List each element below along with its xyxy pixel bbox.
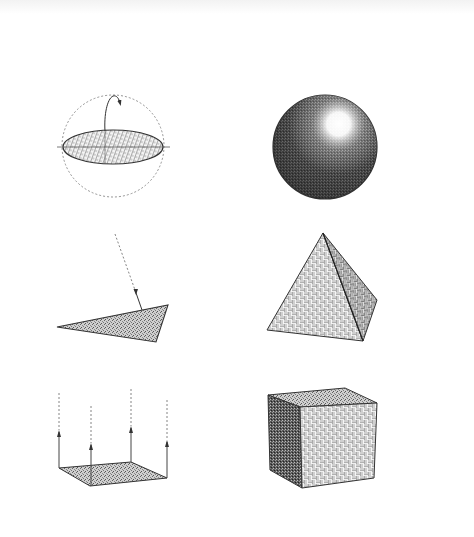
cube-front-face [300, 403, 377, 488]
arrow-up-icon [57, 430, 61, 437]
ray-arrow-icon [134, 289, 139, 295]
sphere-highlight [273, 95, 377, 199]
normal-arrow-1 [57, 393, 61, 468]
normal-arrow-3 [129, 389, 133, 462]
normal-arrow-4 [165, 400, 169, 478]
cube-left-face [268, 395, 302, 488]
hatched-triangle [57, 305, 168, 342]
arrow-up-icon [89, 443, 93, 450]
plane-with-normals-panel [57, 389, 169, 486]
cube-panel [268, 388, 377, 488]
geometry-figure [0, 0, 474, 537]
dashed-ray [115, 234, 135, 290]
rotation-arrow-icon [105, 96, 120, 131]
hatched-plane [59, 462, 167, 486]
arrow-up-icon [165, 440, 169, 447]
shaded-sphere-panel [273, 95, 377, 199]
arrow-up-icon [129, 426, 133, 433]
ellipse-in-circle-panel [57, 95, 170, 197]
triangle-with-ray-panel [57, 234, 168, 342]
pyramid-panel [267, 233, 377, 341]
